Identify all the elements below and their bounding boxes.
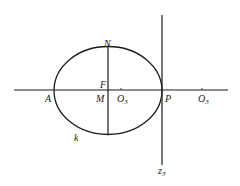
label-A: A xyxy=(44,93,52,104)
label-M: M xyxy=(95,93,105,104)
label-z3: z3 xyxy=(157,165,166,178)
label-O3-inner: O3 xyxy=(117,93,128,106)
label-O3-outer: O3 xyxy=(198,93,209,106)
ellipse-diagram: N F M A P O3 O3 k z3 xyxy=(0,0,240,186)
label-k: k xyxy=(74,132,79,143)
label-F: F xyxy=(99,79,107,90)
label-N: N xyxy=(103,38,112,49)
label-P: P xyxy=(164,93,171,104)
